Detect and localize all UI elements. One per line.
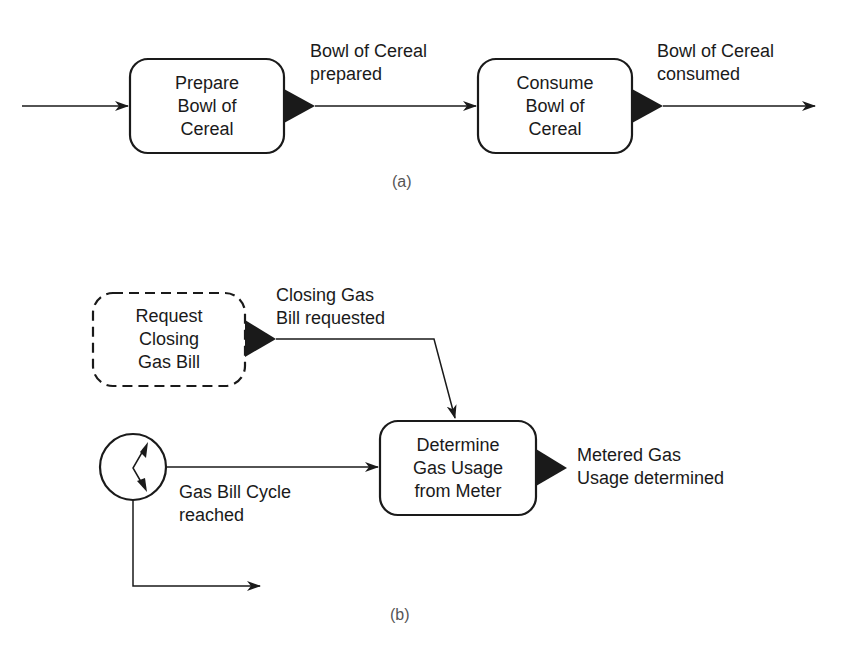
caption-b: (b) bbox=[390, 606, 410, 624]
event-label-determined: Metered Gas Usage determined bbox=[577, 444, 724, 490]
event-triangle-determined bbox=[536, 449, 567, 486]
consume-bowl-label: Consume Bowl of Cereal bbox=[478, 59, 632, 153]
event-triangle-prepared bbox=[284, 89, 315, 123]
event-label-prepared: Bowl of Cereal prepared bbox=[310, 40, 427, 86]
event-triangle-consumed bbox=[632, 89, 663, 123]
determine-gas-usage-label: Determine Gas Usage from Meter bbox=[380, 421, 536, 515]
caption-a: (a) bbox=[392, 173, 412, 191]
event-label-consumed: Bowl of Cereal consumed bbox=[657, 40, 774, 86]
arrow-requested-to-determine bbox=[276, 339, 455, 418]
request-closing-bill-label: Request Closing Gas Bill bbox=[93, 293, 245, 386]
event-triangle-requested bbox=[245, 320, 276, 357]
event-label-requested: Closing Gas Bill requested bbox=[276, 284, 385, 330]
event-label-cycle-reached: Gas Bill Cycle reached bbox=[179, 481, 291, 527]
prepare-bowl-label: Prepare Bowl of Cereal bbox=[130, 59, 284, 153]
